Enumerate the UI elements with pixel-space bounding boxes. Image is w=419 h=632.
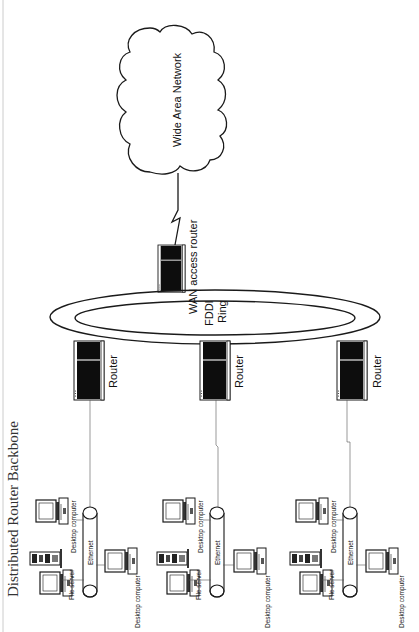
lan-3-ethernet-label: Ethernet bbox=[347, 540, 354, 565]
fddi-ring-label-line1: FDDI bbox=[203, 300, 215, 326]
lan-2-desktop-bottom-label: Desktop computer bbox=[264, 574, 272, 628]
router-2-label: Router bbox=[233, 355, 245, 388]
router-2-lan-link bbox=[216, 400, 218, 508]
lan-1-ethernet-label: Ethernet bbox=[87, 540, 94, 565]
router-1-label: Router bbox=[107, 355, 119, 388]
wan-access-router bbox=[158, 245, 185, 292]
lan-segment-1: Ethernet Desktop computer File server De… bbox=[30, 498, 142, 628]
lan-2-file-server-label: File server bbox=[195, 569, 202, 600]
wan-cloud: Wide Area Network bbox=[117, 25, 227, 174]
wan-access-router-label: WAN access router bbox=[187, 219, 199, 314]
diagram-title: Distributed Router Backbone bbox=[5, 421, 21, 597]
fddi-ring-label-line2: Ring bbox=[216, 300, 228, 323]
lan-3-desktop-top-label: Desktop computer bbox=[330, 499, 338, 553]
router-1 bbox=[74, 341, 104, 400]
lan-1-file-server-label: File server bbox=[68, 569, 75, 600]
lan-3-desktop-top bbox=[296, 498, 328, 524]
lan-3-file-server-label: File server bbox=[328, 569, 335, 600]
lan-3-desktop-bottom-label: Desktop computer bbox=[398, 574, 406, 628]
lan-1-desktop-top-label: Desktop computer bbox=[70, 499, 78, 553]
wan-cloud-label: Wide Area Network bbox=[171, 52, 183, 147]
lan-3-file-server bbox=[290, 549, 322, 568]
lan-1-file-server bbox=[30, 549, 62, 568]
router-2 bbox=[200, 341, 230, 400]
lan-1-desktop-bottom bbox=[105, 548, 137, 574]
lan-1-desktop-top bbox=[36, 498, 68, 524]
lan-segment-2: Ethernet Desktop computer File server De… bbox=[157, 498, 272, 628]
router-3-label: Router bbox=[371, 355, 383, 388]
fddi-ring bbox=[50, 290, 380, 344]
network-diagram: Distributed Router Backbone Wide Area Ne… bbox=[0, 0, 419, 632]
lan-2-file-server bbox=[157, 549, 189, 568]
router-3 bbox=[337, 341, 367, 400]
wan-serial-link bbox=[172, 173, 180, 245]
lan-segment-3: Ethernet Desktop computer File server De… bbox=[290, 498, 406, 628]
lan-2-desktop-top-label: Desktop computer bbox=[197, 499, 205, 553]
lan-1-desktop-bottom-label: Desktop computer bbox=[134, 574, 142, 628]
lan-2-desktop-top bbox=[163, 498, 195, 524]
lan-3-desktop-bottom bbox=[366, 548, 398, 574]
lan-2-desktop-bottom bbox=[234, 548, 266, 574]
lan-2-ethernet-label: Ethernet bbox=[214, 540, 221, 565]
router-3-lan-link bbox=[347, 400, 350, 508]
